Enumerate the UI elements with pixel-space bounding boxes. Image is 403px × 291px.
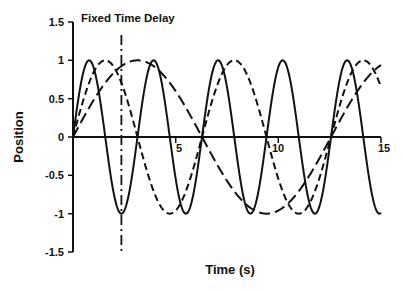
- x-axis-title: Time (s): [205, 262, 255, 277]
- y-tick-labels: 1.5 1 0.5 0 -0.5 -1 -1.5: [45, 16, 64, 258]
- x-tick-label: 10: [272, 142, 284, 154]
- y-tick-label: -1: [54, 208, 64, 220]
- fixed-time-delay-label: Fixed Time Delay: [81, 12, 175, 24]
- y-tick-label: 0: [58, 131, 64, 143]
- y-tick-label: -0.5: [45, 169, 64, 181]
- y-tick-label: 0.5: [49, 93, 64, 105]
- x-tick-labels: 5 10 15: [176, 142, 390, 154]
- y-axis-title: Position: [11, 111, 26, 162]
- chart: 1.5 1 0.5 0 -0.5 -1 -1.5 5 10 15 Time (s…: [0, 0, 403, 291]
- y-tick-label: 1: [58, 54, 64, 66]
- x-tick-label: 15: [378, 142, 390, 154]
- y-tick-label: -1.5: [45, 246, 64, 258]
- x-tick-label: 5: [176, 142, 182, 154]
- y-tick-label: 1.5: [49, 16, 64, 28]
